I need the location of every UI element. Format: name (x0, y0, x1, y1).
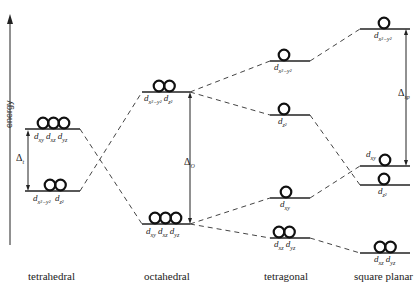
orbital-label-tetragonal-dxy: dxy (280, 199, 290, 211)
orbital-label-squareplanar-dx2y2: dx²−y² (374, 30, 391, 42)
energy-axis (7, 14, 13, 245)
orbital-label-squareplanar-dxy: dxy (366, 149, 376, 161)
orbital-label-octahedral-t2g: dxy dxz dyz (146, 226, 179, 238)
crystal-field-diagram (0, 0, 417, 293)
orbital-circles (38, 18, 396, 253)
orbital-label-squareplanar-dxzdyz: dxz dyz (374, 254, 395, 266)
orbital-label-tetrahedral-t2: dxy dxz dyz (34, 131, 67, 143)
splitting-arrows (26, 29, 408, 224)
energy-levels (25, 29, 410, 253)
geometry-label-octahedral: octahedral (144, 270, 190, 282)
geometry-label-square-planar: square planar (354, 270, 413, 282)
orbital-label-tetragonal-dx2y2: dx²−y² (274, 62, 291, 74)
correlation-lines (80, 29, 360, 253)
delta-sp-label: Δsp (398, 87, 410, 100)
orbital-label-tetragonal-dz2: dz² (278, 116, 287, 128)
delta-t-label: Δt (16, 152, 24, 165)
geometry-label-tetragonal: tetragonal (264, 270, 308, 282)
energy-axis-label: energy (4, 100, 14, 128)
delta-o-label: ΔO (184, 156, 195, 169)
orbital-label-tetragonal-dxzdyz: dxz dyz (274, 239, 295, 251)
orbital-label-tetrahedral-e: dx²−y² dz² (33, 193, 64, 205)
geometry-label-tetrahedral: tetrahedral (28, 270, 75, 282)
orbital-label-octahedral-eg: dx²−y² dz² (144, 93, 172, 105)
orbital-label-squareplanar-dz2: dz² (378, 186, 387, 198)
